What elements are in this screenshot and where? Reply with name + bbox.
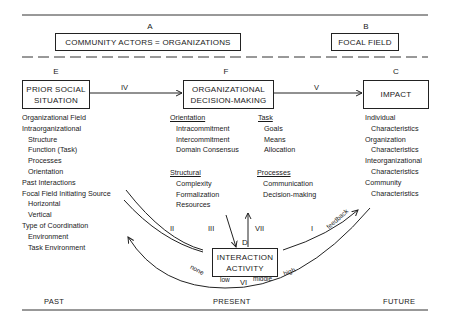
list-item: Organization [365, 135, 422, 146]
prior-situation-list: Organizational Field Intraorganizational… [22, 113, 111, 253]
list-item: Means [258, 135, 295, 146]
list-item: Function (Task) [22, 145, 111, 156]
timeline-past: PAST [44, 297, 64, 306]
structural-group: Structural Complexity Formalization Reso… [170, 168, 219, 211]
focal-field-box: FOCAL FIELD [331, 33, 399, 51]
list-item: Type of Coordination [22, 221, 111, 232]
label-i: I [311, 224, 313, 233]
box-d-line2: ACTIVITY [226, 263, 264, 274]
list-item: Individual [365, 113, 422, 124]
list-item: Vertical [22, 210, 111, 221]
letter-e: E [46, 67, 66, 76]
orientation-group: Orientation Intracommitment Intercommitm… [170, 113, 239, 156]
list-item: Intercommitment [170, 135, 239, 146]
label-vi: VI [240, 278, 247, 287]
list-item: Communication [257, 179, 316, 190]
orientation-heading: Orientation [170, 113, 239, 124]
task-heading: Task [258, 113, 295, 124]
task-group: Task Goals Means Allocation [258, 113, 295, 156]
list-item: Domain Consensus [170, 145, 239, 156]
label-v: V [314, 83, 319, 92]
list-item: Formalization [170, 190, 219, 201]
organizational-decision-making-box: ORGANIZATIONAL DECISION-MAKING [183, 80, 274, 109]
list-item: Characteristics [365, 167, 422, 178]
letter-f: F [216, 67, 236, 76]
list-item: Orientation [22, 167, 111, 178]
box-d-line1: INTERACTION [217, 252, 273, 263]
box-f-line2: DECISION-MAKING [191, 95, 267, 106]
scale-low: low [220, 276, 230, 283]
structural-heading: Structural [170, 168, 219, 179]
label-iv: IV [121, 83, 128, 92]
letter-a: A [140, 22, 160, 31]
arrow-iii [226, 215, 236, 247]
interaction-activity-box: INTERACTION ACTIVITY [212, 248, 278, 277]
list-item: Past Interactions [22, 178, 111, 189]
list-item: Intracommitment [170, 124, 239, 135]
list-item: Inteorganizational [365, 156, 422, 167]
list-item: Characteristics [365, 124, 422, 135]
arc-i [283, 210, 358, 250]
processes-group: Processes Communication Decision-making [257, 168, 316, 200]
list-item: Horizontal [22, 199, 111, 210]
timeline-future: FUTURE [383, 297, 415, 306]
list-item: Goals [258, 124, 295, 135]
box-f-line1: ORGANIZATIONAL [192, 84, 265, 95]
letter-d: D [242, 238, 248, 247]
list-item: Organizational Field [22, 113, 111, 124]
list-item: Processes [22, 156, 111, 167]
letter-c: C [386, 67, 406, 76]
label-ii: II [170, 224, 174, 233]
community-actors-box: COMMUNITY ACTORS = ORGANIZATIONS [55, 33, 241, 51]
label-iii: III [208, 224, 214, 233]
list-item: Resources [170, 200, 219, 211]
letter-b: B [356, 22, 376, 31]
box-e-line1: PRIOR SOCIAL [26, 84, 85, 95]
scale-middle: middle [253, 275, 272, 282]
prior-social-situation-box: PRIOR SOCIAL SITUATION [22, 80, 90, 109]
label-vii: VII [255, 224, 264, 233]
list-item: Environment [22, 232, 111, 243]
timeline-present: PRESENT [213, 297, 251, 306]
impact-box: IMPACT [363, 80, 429, 109]
list-item: Allocation [258, 145, 295, 156]
processes-heading: Processes [257, 168, 316, 179]
impact-list: Individual Characteristics Organization … [365, 113, 422, 199]
list-item: Structure [22, 135, 111, 146]
list-item: Characteristics [365, 189, 422, 200]
list-item: Complexity [170, 179, 219, 190]
box-e-line2: SITUATION [34, 95, 78, 106]
list-item: Community [365, 178, 422, 189]
list-item: Task Environment [22, 243, 111, 254]
list-item: Intraorganizational [22, 124, 111, 135]
list-item: Characteristics [365, 145, 422, 156]
list-item: Decision-making [257, 190, 316, 201]
list-item: Focal Field Initiating Source [22, 189, 111, 200]
